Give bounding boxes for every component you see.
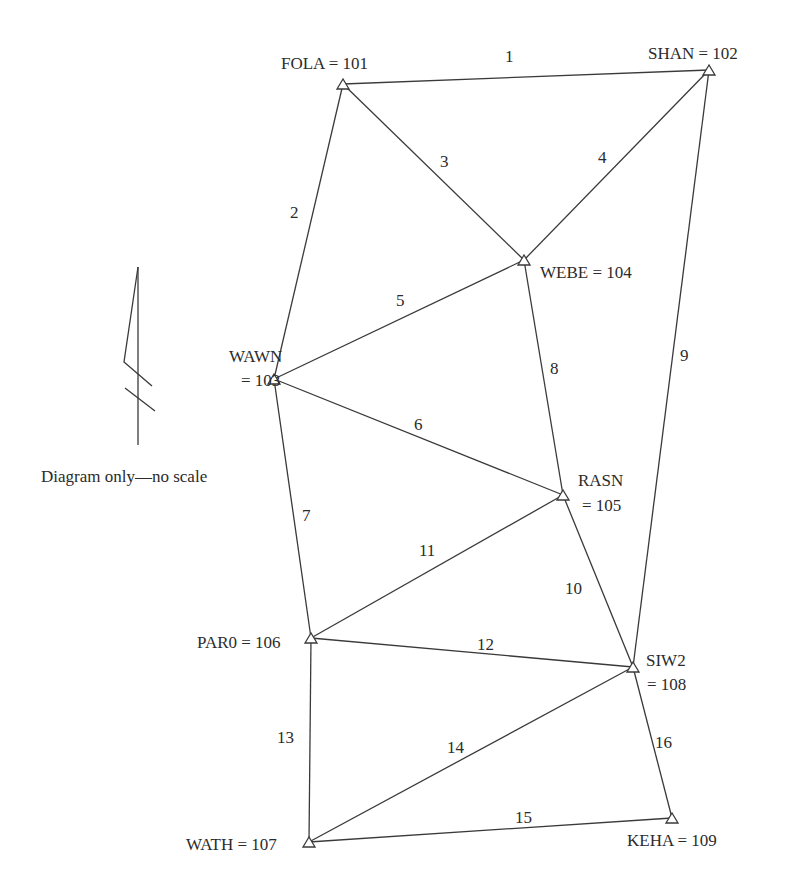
line-label-12: 12 [477,635,494,654]
line-label-15: 15 [515,808,532,827]
station-label-108-id: = 108 [647,675,686,694]
station-label-106: PAR0 = 106 [197,633,281,652]
station-label-109: KEHA = 109 [627,831,717,850]
line-13 [309,638,311,842]
stations [268,65,715,847]
line-label-3: 3 [440,152,449,171]
line-label-11: 11 [419,541,435,560]
line-label-10: 10 [565,579,582,598]
station-label-102: SHAN = 102 [648,44,738,63]
line-label-4: 4 [598,148,607,167]
station-label-104: WEBE = 104 [540,263,632,282]
line-14 [309,667,633,842]
line-6 [274,379,563,495]
line-label-16: 16 [655,733,672,752]
line-label-14: 14 [447,738,465,757]
line-label-5: 5 [396,291,405,310]
station-label-101: FOLA = 101 [281,54,368,73]
line-label-13: 13 [277,728,294,747]
line-label-9: 9 [680,346,689,365]
line-labels: 1 2 3 4 5 6 7 8 9 10 11 12 13 14 15 16 [277,47,689,827]
station-label-105-name: RASN [578,471,623,490]
station-label-105-id: = 105 [582,496,621,515]
line-1 [343,70,709,84]
station-label-103-id: = 103 [241,371,280,390]
line-2 [274,84,343,379]
line-4 [524,70,709,260]
line-label-2: 2 [290,203,299,222]
survey-lines [274,70,709,842]
line-label-8: 8 [550,359,559,378]
line-label-6: 6 [414,415,423,434]
line-3 [343,84,524,260]
line-12 [311,638,633,667]
line-label-7: 7 [302,506,311,525]
diagram-caption: Diagram only—no scale [41,467,207,486]
line-9 [633,70,709,667]
line-15 [309,818,672,842]
network-diagram: 1 2 3 4 5 6 7 8 9 10 11 12 13 14 15 16 F… [0,0,791,887]
station-label-107: WATH = 107 [186,835,277,854]
station-label-103-name: WAWN [229,347,282,366]
station-label-108-name: SIW2 [646,651,686,670]
north-arrow-icon [124,267,155,445]
station-marker-105[interactable] [557,490,569,500]
line-11 [311,495,563,638]
line-5 [274,260,524,379]
line-label-1: 1 [505,47,514,66]
